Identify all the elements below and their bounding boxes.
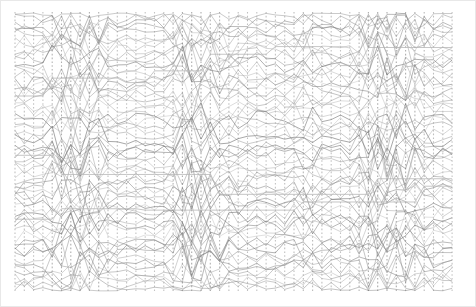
figure-root (0, 0, 476, 307)
parallel-coordinates-plot (0, 0, 476, 307)
